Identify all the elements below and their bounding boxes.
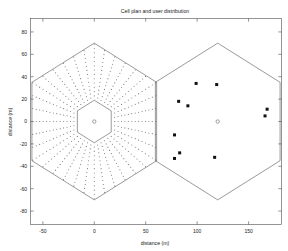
grid-dot [78,150,79,151]
grid-dot [130,167,131,168]
grid-dot [56,113,57,114]
grid-dot [87,164,88,165]
grid-dot [112,144,113,145]
grid-dot [119,152,120,153]
user-marker [264,114,267,117]
grid-dot [90,94,91,95]
grid-dot [123,158,124,159]
grid-dot [152,97,153,98]
grid-dot [63,115,64,116]
grid-dot [85,62,86,63]
grid-dot [55,72,56,73]
grid-dot [74,60,75,61]
grid-dot [118,126,119,127]
grid-dot [145,153,146,154]
grid-dot [39,132,40,133]
grid-dot [63,134,64,135]
grid-dot [70,166,71,167]
grid-dot [80,95,81,96]
grid-dot [73,125,74,126]
grid-dot [124,179,125,180]
grid-dot [51,83,52,84]
grid-dot [142,78,143,79]
grid-dot [113,60,114,61]
x-tick-label: 100 [193,228,202,234]
grid-dot [36,145,37,146]
grid-dot [46,121,47,122]
grid-dot [97,98,98,99]
grid-dot [94,155,95,156]
grid-dot [124,115,125,116]
grid-dot [101,70,102,71]
grid-dot [139,81,140,82]
grid-dot [56,145,57,146]
grid-dot [142,131,143,132]
grid-dot [124,102,125,103]
grid-dot [126,81,127,82]
grid-dot [73,185,74,186]
grid-dot [32,121,33,122]
grid-dot [94,91,95,92]
y-tick-label: -60 [20,186,27,192]
grid-dot [60,107,61,108]
grid-dot [131,97,132,98]
grid-dot [63,121,64,122]
grid-dot [49,112,50,113]
grid-dot [39,98,40,99]
grid-dot [121,172,122,173]
grid-dot [63,102,64,103]
grid-dot [36,157,37,158]
grid-dot [128,164,129,165]
grid-dot [94,78,95,79]
grid-dot [106,99,107,100]
grid-dot [57,153,58,154]
grid-dot [114,108,115,109]
grid-dot [110,101,111,102]
grid-dot [62,161,63,162]
grid-dot [107,95,108,96]
grid-dot [88,82,89,83]
grid-dot [148,144,149,145]
grid-dot [57,167,58,168]
grid-dot [114,138,115,139]
grid-dot [84,140,85,141]
grid-dot [84,188,85,189]
grid-dot [74,182,75,183]
grid-dot [94,48,95,49]
grid-dot [152,133,153,134]
grid-dot [121,104,122,105]
grid-dot [62,148,63,149]
y-tick-label: -40 [20,163,27,169]
grid-dot [116,141,117,142]
grid-dot [104,89,105,90]
grid-dot [60,164,61,165]
grid-dot [60,121,61,122]
grid-dot [85,92,86,93]
grid-dot [103,54,104,55]
grid-dot [73,108,74,109]
grid-dot [46,131,47,132]
grid-dot [54,156,55,157]
grid-dot [113,182,114,183]
grid-dot [80,138,81,139]
grid-dot [123,84,124,85]
grid-dot [77,136,78,137]
grid-dot [70,76,71,77]
grid-dot [145,166,146,167]
grid-dot [135,69,136,70]
grid-dot [68,73,69,74]
grid-dot [104,192,105,193]
grid-dot [145,76,146,77]
grid-dot [82,143,83,144]
grid-dot [109,92,110,93]
grid-dot [94,95,95,96]
grid-dot [85,149,86,150]
grid-dot [42,76,43,77]
grid-dot [49,121,50,122]
grid-dot [121,127,122,128]
grid-dot [78,141,79,142]
grid-dot [101,172,102,173]
grid-dot [118,111,119,112]
grid-dot [60,78,61,79]
grid-dot [67,127,68,128]
